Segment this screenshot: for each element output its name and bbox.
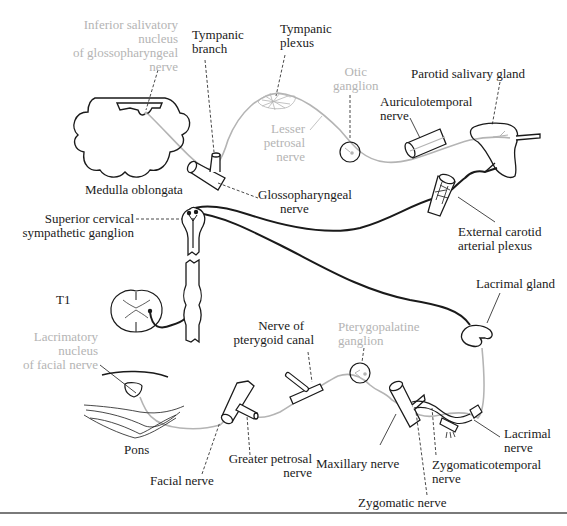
lacrimatory-nucleus-pointer bbox=[100, 365, 136, 393]
label-glossopharyngeal-nerve: Glossopharyngeal nerve bbox=[258, 188, 352, 216]
t1-preganglionic-dot bbox=[148, 309, 152, 313]
facial-nerve-tube bbox=[220, 381, 258, 425]
label-tympanic-plexus: Tympanic plexus bbox=[280, 22, 332, 50]
external-carotid-plexus-tube bbox=[428, 173, 456, 216]
bottom-rule-divider bbox=[0, 512, 567, 514]
label-lesser-petrosal-nerve: Lesser petrosal nerve bbox=[255, 122, 305, 164]
label-zygomaticotemporal-nerve: Zygomaticotemporal nerve bbox=[432, 458, 541, 486]
label-greater-petrosal-nerve: Greater petrosal nerve bbox=[220, 452, 312, 480]
label-otic-ganglion: Otic ganglion bbox=[333, 65, 379, 93]
inferior-salivatory-nucleus-dot bbox=[144, 111, 147, 114]
pointer-external-carotid bbox=[458, 197, 495, 222]
pterygopalatine-ganglion-circle bbox=[350, 363, 370, 383]
label-lacrimatory-nucleus: Lacrimatory nucleus of facial nerve bbox=[16, 330, 98, 372]
label-pons: Pons bbox=[124, 443, 149, 457]
pointer-zygomatic bbox=[416, 412, 427, 495]
label-lacrimal-gland: Lacrimal gland bbox=[476, 277, 555, 291]
label-medulla-oblongata: Medulla oblongata bbox=[85, 183, 183, 197]
pointer-lacrimal-gland bbox=[487, 293, 500, 323]
medulla-oblongata-shape bbox=[74, 98, 190, 177]
label-facial-nerve: Facial nerve bbox=[150, 474, 214, 488]
pointer-tympanic-plexus bbox=[276, 55, 285, 96]
label-superior-cervical-ganglion: Superior cervical sympathetic ganglion bbox=[14, 212, 134, 240]
ganglion-cell-dot-1 bbox=[187, 211, 191, 215]
label-nerve-of-pterygoid-canal: Nerve of pterygoid canal bbox=[230, 319, 314, 347]
ganglion-cell-dot-2 bbox=[194, 210, 198, 214]
pointer-maxillary bbox=[380, 414, 396, 445]
spinal-cord-t1-section bbox=[111, 290, 162, 332]
zygomatic-branch-tube bbox=[412, 401, 482, 438]
auriculotemporal-tube bbox=[403, 129, 446, 159]
label-parotid-salivary-gland: Parotid salivary gland bbox=[411, 67, 525, 81]
otic-ganglion-circle bbox=[340, 142, 360, 162]
sympathetic-trunk bbox=[182, 207, 205, 342]
parotid-gland-shape bbox=[471, 123, 540, 177]
pointer-lacrimal-nerve bbox=[474, 420, 500, 437]
label-lacrimal-nerve: Lacrimal nerve bbox=[504, 427, 551, 455]
label-pterygopalatine-ganglion: Pterygopalatine ganglion bbox=[338, 320, 420, 348]
pointer-parotid-gland bbox=[492, 82, 500, 126]
pointer-glossopharyngeal bbox=[218, 183, 258, 198]
pointer-tympanic-branch bbox=[205, 60, 214, 152]
label-t1: T1 bbox=[56, 293, 70, 307]
label-external-carotid-plexus: External carotid arterial plexus bbox=[458, 225, 541, 253]
pterygoid-canal-tube bbox=[288, 375, 323, 404]
label-inferior-salivatory-nucleus: Inferior salivatory nucleus of glossopha… bbox=[68, 18, 178, 74]
label-zygomatic-nerve: Zygomatic nerve bbox=[358, 496, 446, 510]
pointer-inferior-salivatory bbox=[146, 70, 158, 110]
pointer-lesser-petrosal bbox=[310, 116, 322, 130]
pointer-pterygopalatine bbox=[362, 348, 364, 362]
maxillary-nerve-tube bbox=[388, 379, 425, 427]
pointer-facial-nerve bbox=[202, 422, 220, 474]
label-auriculotemporal-nerve: Auriculotemporal nerve bbox=[380, 95, 472, 123]
lacrimal-gland-shape bbox=[461, 325, 492, 346]
pointer-greater-petrosal bbox=[247, 416, 250, 455]
label-maxillary-nerve: Maxillary nerve bbox=[316, 457, 399, 471]
pons-shape bbox=[84, 371, 184, 438]
pointer-nerve-pterygoid bbox=[308, 352, 312, 382]
label-tympanic-branch: Tympanic branch bbox=[192, 28, 244, 56]
pointer-zygomaticotemporal bbox=[432, 408, 436, 455]
